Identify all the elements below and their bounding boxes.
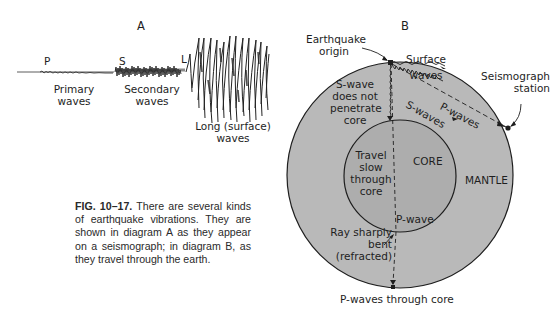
primary-waves-label: Primary waves	[50, 83, 98, 107]
secondary-waves-label: Secondary waves	[121, 83, 183, 107]
surface-waves-label: Surface waves	[404, 53, 448, 81]
station-pointer-arrow	[511, 104, 521, 126]
figure-number: FIG. 10–17.	[75, 200, 132, 212]
primary-waves-trace	[17, 71, 114, 73]
p-wave-core-label: P-wave	[396, 213, 434, 225]
bottom-station-marker	[391, 285, 395, 289]
figure: A P S L Primary waves Secondary waves Lo…	[0, 0, 557, 319]
long-waves-trace	[186, 36, 269, 123]
secondary-waves-trace	[115, 66, 185, 77]
seismograph-station-label: Seismograph station	[460, 70, 550, 94]
s-wave-no-penetrate-label: S-wave does not penetrate core	[330, 78, 380, 126]
figure-caption: FIG. 10–17. There are several kinds of e…	[75, 200, 251, 266]
earthquake-origin-marker	[388, 60, 393, 65]
ray-refracted-label: Ray sharply bent (refracted)	[310, 226, 392, 262]
travel-slow-label: Travel slow through core	[350, 149, 392, 197]
seismogram-diagram	[0, 0, 557, 319]
diagram-b-title: B	[401, 20, 409, 32]
core-label: CORE	[413, 155, 443, 167]
p-waves-through-core-label: P-waves through core	[340, 293, 450, 305]
s-marker: S	[119, 55, 126, 67]
mantle-label: MANTLE	[465, 174, 508, 186]
long-surface-waves-label: Long (surface) waves	[193, 120, 273, 144]
diagram-a-title: A	[137, 20, 145, 32]
seismograph-station-marker	[505, 125, 510, 130]
p-marker: P	[44, 55, 50, 67]
earthquake-origin-label: Earthquake origin	[306, 33, 362, 57]
l-marker: L	[181, 53, 187, 65]
